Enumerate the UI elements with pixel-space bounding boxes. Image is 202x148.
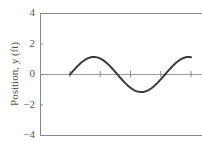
position-chart: 420−2−4 Position, y (ft)	[0, 0, 202, 148]
y-tick-label: −2	[23, 98, 35, 110]
y-tick-label: 0	[30, 67, 36, 79]
y-tick-labels: 420−2−4	[23, 6, 35, 140]
y-tick-label: 2	[30, 37, 36, 49]
y-tick-label: 4	[30, 6, 36, 18]
y-axis-label: Position, y (ft)	[8, 42, 21, 106]
y-tick-label: −4	[23, 128, 35, 140]
